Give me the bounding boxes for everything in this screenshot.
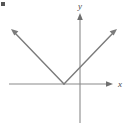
y-axis-arrowhead-icon	[77, 13, 83, 20]
graph-left-branch	[15, 33, 64, 84]
graph-figure: y x	[0, 0, 128, 123]
coordinate-plane-graphic: y x	[0, 0, 128, 123]
x-axis-arrowhead-icon	[106, 81, 113, 87]
y-axis-label: y	[77, 1, 82, 11]
graph-right-branch	[64, 33, 113, 84]
x-axis-label: x	[117, 79, 122, 89]
